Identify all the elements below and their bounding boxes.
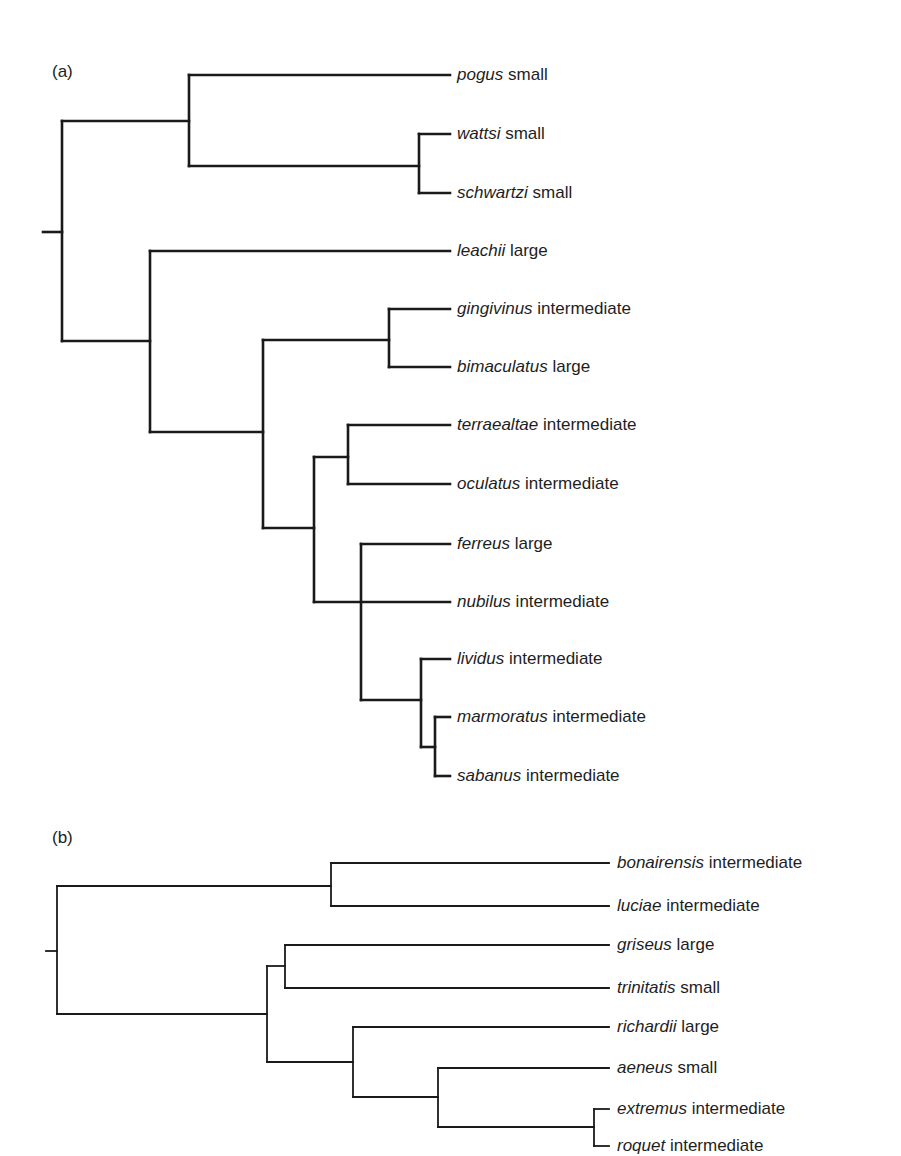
species-name: roquet xyxy=(617,1136,665,1155)
tip-label-gingivinus: gingivinus intermediate xyxy=(457,299,631,319)
tip-label-marmoratus: marmoratus intermediate xyxy=(457,707,646,727)
size-class: large xyxy=(505,241,548,260)
tip-label-sabanus: sabanus intermediate xyxy=(457,766,620,786)
size-class: intermediate xyxy=(533,299,631,318)
tip-label-bimaculatus: bimaculatus large xyxy=(457,357,590,377)
species-name: aeneus xyxy=(617,1058,673,1077)
species-name: gingivinus xyxy=(457,299,533,318)
tip-label-trinitatis: trinitatis small xyxy=(617,978,720,998)
tip-label-aeneus: aeneus small xyxy=(617,1058,717,1078)
size-class: intermediate xyxy=(520,474,618,493)
species-name: griseus xyxy=(617,935,672,954)
size-class: large xyxy=(548,357,591,376)
tip-label-bonairensis: bonairensis intermediate xyxy=(617,853,802,873)
tip-label-extremus: extremus intermediate xyxy=(617,1099,785,1119)
tip-label-ferreus: ferreus large xyxy=(457,534,552,554)
phylogeny-canvas xyxy=(0,0,901,1156)
tip-label-leachii: leachii large xyxy=(457,241,548,261)
size-class: large xyxy=(510,534,553,553)
species-name: ferreus xyxy=(457,534,510,553)
panel-b-label: (b) xyxy=(52,828,73,848)
size-class: intermediate xyxy=(504,649,602,668)
species-name: schwartzi xyxy=(457,183,528,202)
size-class: large xyxy=(677,1017,720,1036)
species-name: nubilus xyxy=(457,592,511,611)
size-class: intermediate xyxy=(665,1136,763,1155)
tree-a-branches xyxy=(43,75,450,776)
species-name: oculatus xyxy=(457,474,520,493)
size-class: small xyxy=(528,183,572,202)
tip-label-lividus: lividus intermediate xyxy=(457,649,603,669)
species-name: marmoratus xyxy=(457,707,548,726)
species-name: sabanus xyxy=(457,766,521,785)
panel-a-label: (a) xyxy=(52,62,73,82)
size-class: intermediate xyxy=(548,707,646,726)
species-name: richardii xyxy=(617,1017,677,1036)
size-class: intermediate xyxy=(687,1099,785,1118)
tip-label-roquet: roquet intermediate xyxy=(617,1136,763,1156)
species-name: lividus xyxy=(457,649,504,668)
tip-label-schwartzi: schwartzi small xyxy=(457,183,572,203)
size-class: intermediate xyxy=(521,766,619,785)
size-class: intermediate xyxy=(511,592,609,611)
tip-label-richardii: richardii large xyxy=(617,1017,719,1037)
species-name: luciae xyxy=(617,896,661,915)
size-class: small xyxy=(673,1058,717,1077)
species-name: wattsi xyxy=(457,124,500,143)
size-class: small xyxy=(500,124,544,143)
tip-label-nubilus: nubilus intermediate xyxy=(457,592,609,612)
size-class: small xyxy=(676,978,720,997)
tip-label-terraealtae: terraealtae intermediate xyxy=(457,415,637,435)
species-name: terraealtae xyxy=(457,415,538,434)
tip-label-oculatus: oculatus intermediate xyxy=(457,474,619,494)
species-name: bimaculatus xyxy=(457,357,548,376)
size-class: intermediate xyxy=(661,896,759,915)
size-class: intermediate xyxy=(538,415,636,434)
species-name: trinitatis xyxy=(617,978,676,997)
size-class: small xyxy=(503,65,547,84)
tip-label-pogus: pogus small xyxy=(457,65,548,85)
species-name: pogus xyxy=(457,65,503,84)
tree-b-branches xyxy=(46,863,609,1146)
size-class: large xyxy=(672,935,715,954)
species-name: leachii xyxy=(457,241,505,260)
tip-label-griseus: griseus large xyxy=(617,935,714,955)
species-name: bonairensis xyxy=(617,853,704,872)
tip-label-luciae: luciae intermediate xyxy=(617,896,760,916)
species-name: extremus xyxy=(617,1099,687,1118)
tip-label-wattsi: wattsi small xyxy=(457,124,545,144)
size-class: intermediate xyxy=(704,853,802,872)
